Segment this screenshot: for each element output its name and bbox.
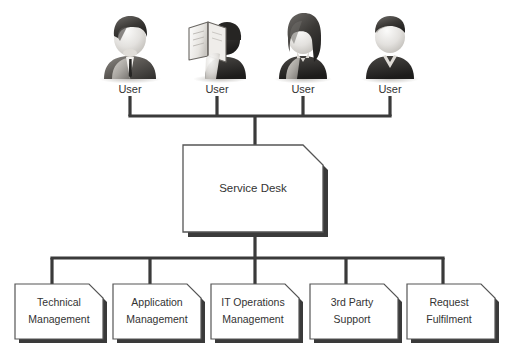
user-label-1: User	[118, 83, 142, 95]
function-box-label-line1: Application	[131, 296, 183, 308]
function-node-application-management[interactable]: Application Management	[113, 284, 205, 343]
function-node-request-fulfilment[interactable]: Request Fulfilment	[407, 284, 499, 343]
function-box-label-line2: Support	[334, 313, 371, 325]
user-reader-icon	[189, 22, 247, 83]
function-node-it-operations-management[interactable]: IT Operations Management	[211, 284, 303, 343]
service-desk-label: Service Desk	[219, 182, 287, 194]
user-label-2: User	[205, 83, 229, 95]
user-businessman-icon	[99, 16, 161, 84]
user-label-4: User	[378, 83, 402, 95]
user-casual-icon	[361, 16, 419, 84]
service-desk-diagram: User User User User Service Desk Technic…	[0, 0, 518, 360]
function-box-label-line1: Technical	[37, 296, 81, 308]
function-box-shape	[407, 284, 495, 339]
function-box-shape	[113, 284, 201, 339]
function-box-label-line2: Management	[28, 313, 89, 325]
function-box-shape	[15, 284, 103, 339]
function-node-technical-management[interactable]: Technical Management	[15, 284, 107, 343]
function-box-label-line2: Fulfilment	[426, 313, 472, 325]
user-labels: User User User User	[118, 83, 402, 95]
function-box-label-line2: Management	[126, 313, 187, 325]
function-box-label-line1: 3rd Party	[331, 296, 374, 308]
function-box-label-line2: Management	[222, 313, 283, 325]
function-box-shape	[310, 284, 398, 339]
function-box-label-line1: IT Operations	[221, 296, 284, 308]
diagram-canvas: User User User User Service Desk Technic…	[0, 0, 518, 360]
user-woman-icon	[274, 13, 332, 84]
user-label-3: User	[291, 83, 315, 95]
service-desk-node[interactable]: Service Desk	[183, 145, 328, 237]
function-node-3rd-party-support[interactable]: 3rd Party Support	[310, 284, 402, 343]
book-glyph	[189, 22, 226, 62]
function-box-shape	[211, 284, 299, 339]
function-box-label-line1: Request	[429, 296, 468, 308]
